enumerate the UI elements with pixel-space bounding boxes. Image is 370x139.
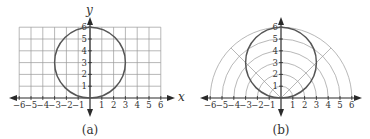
y-tick-label: 5 [273, 34, 278, 44]
x-tick-label: −6 [13, 100, 26, 110]
x-axis-label: x [178, 90, 185, 104]
x-tick-label: −1 [72, 100, 85, 110]
x-tick-label: −4 [228, 100, 241, 110]
y-tick-label: 1 [82, 81, 87, 91]
x-tick-label: 5 [337, 100, 342, 110]
x-tick-label: 2 [111, 100, 116, 110]
caption-a: (a) [82, 123, 99, 137]
x-tick-label: −5 [25, 100, 38, 110]
x-axis-right-arrow-icon [354, 95, 362, 101]
panel-b-polar-graph: −6−5−4−3−2−1123456123456 [200, 17, 362, 117]
panel-a-rectangular-graph: −6−5−4−3−2−1123456123456xy [9, 3, 185, 117]
y-tick-label: 4 [82, 46, 87, 56]
y-tick-label: 1 [273, 81, 278, 91]
y-axis-down-arrow-icon [278, 109, 284, 117]
x-tick-label: −6 [204, 100, 217, 110]
x-tick-label: −1 [263, 100, 276, 110]
x-tick-label: 6 [158, 100, 163, 110]
x-tick-label: 1 [99, 100, 104, 110]
x-tick-label: 2 [302, 100, 307, 110]
x-tick-label: 4 [325, 100, 330, 110]
x-tick-label: 5 [146, 100, 151, 110]
y-tick-label: 4 [273, 46, 278, 56]
x-tick-label: 3 [123, 100, 128, 110]
x-tick-label: −5 [216, 100, 229, 110]
polar-ray [281, 48, 331, 98]
x-tick-label: −4 [37, 100, 50, 110]
x-tick-label: −2 [251, 100, 264, 110]
y-tick-label: 2 [82, 69, 87, 79]
y-axis-down-arrow-icon [87, 109, 93, 117]
y-tick-label: 2 [273, 69, 278, 79]
x-tick-label: −2 [60, 100, 73, 110]
y-tick-label: 3 [82, 58, 87, 68]
x-tick-label: 6 [349, 100, 354, 110]
x-tick-label: −3 [48, 100, 61, 110]
x-tick-label: 4 [134, 100, 139, 110]
figure: −6−5−4−3−2−1123456123456xy −6−5−4−3−2−11… [0, 0, 370, 139]
x-axis-right-arrow-icon [167, 95, 175, 101]
y-tick-label: 5 [82, 34, 87, 44]
y-axis-up-arrow-icon [87, 17, 93, 25]
caption-b: (b) [272, 123, 289, 137]
x-tick-label: 3 [314, 100, 319, 110]
x-tick-label: −3 [239, 100, 252, 110]
y-axis-label: y [85, 3, 93, 17]
y-tick-label: 3 [273, 58, 278, 68]
x-tick-label: 1 [290, 100, 295, 110]
y-axis-up-arrow-icon [278, 17, 284, 25]
